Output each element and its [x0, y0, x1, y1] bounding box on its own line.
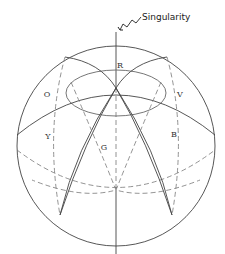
front-diagonal-right — [116, 88, 172, 215]
front-diagonal-left — [60, 88, 116, 215]
region-label-g: G — [101, 143, 107, 152]
region-label-b: B — [171, 130, 177, 139]
left-meridian-dashed — [54, 57, 65, 215]
singularity-label: Singularity — [142, 12, 191, 22]
zigzag-arrow-icon — [120, 17, 141, 30]
region-label-o: O — [44, 90, 51, 99]
color-sphere-diagram: Singularity R O V Y G B — [0, 0, 225, 254]
region-label-r: R — [117, 61, 124, 70]
region-label-y: Y — [44, 132, 51, 141]
region-label-v: V — [176, 90, 183, 99]
